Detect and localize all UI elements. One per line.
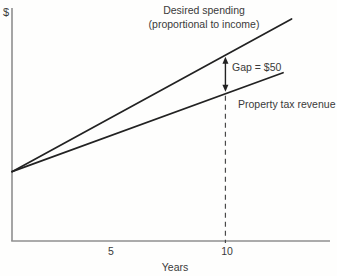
- upper-series-label-line1: Desired spending: [163, 4, 245, 16]
- upper-series-label: Desired spending (proportional to income…: [134, 3, 274, 31]
- figure: $ Desired spending (proportional to inco…: [0, 0, 337, 276]
- x-tick-label-10: 10: [217, 245, 237, 257]
- gap-annotation-label: Gap = $50: [232, 61, 281, 73]
- x-axis-label: Years: [145, 261, 205, 273]
- upper-series-label-line2: (proportional to income): [149, 18, 260, 30]
- x-tick-label-5: 5: [101, 245, 121, 257]
- gap-arrow-head-up: [222, 57, 228, 64]
- series-line-0: [12, 19, 292, 172]
- y-axis-label: $: [3, 6, 9, 18]
- gap-arrow-head-down: [222, 85, 228, 92]
- lower-series-label: Property tax revenue: [238, 98, 335, 110]
- chart-canvas: [0, 0, 337, 276]
- series-line-1: [12, 73, 283, 172]
